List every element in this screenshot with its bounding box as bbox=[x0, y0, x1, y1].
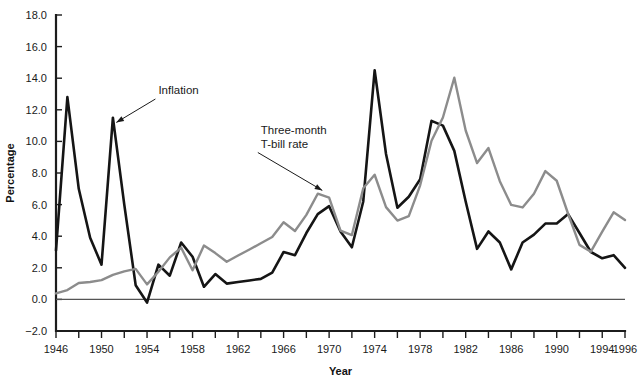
annotation-arrow-head bbox=[116, 116, 124, 122]
x-tick-label: 1970 bbox=[317, 343, 341, 355]
x-tick-label: 1946 bbox=[44, 343, 68, 355]
y-tick-label: 4.0 bbox=[32, 230, 47, 242]
x-tick-label: 1958 bbox=[180, 343, 204, 355]
y-tick-label: 14.0 bbox=[26, 72, 47, 84]
x-tick-label: 1996 bbox=[613, 343, 637, 355]
x-tick-label: 1962 bbox=[226, 343, 250, 355]
x-tick-label: 1966 bbox=[271, 343, 295, 355]
inflation-tbill-chart-figure: 18.016.014.012.010.08.06.04.02.00.0−2.0 … bbox=[0, 0, 638, 387]
tbill-annotation: Three-monthT-bill rate bbox=[258, 124, 327, 191]
series-line-inflation bbox=[56, 70, 625, 302]
x-tick-label: 1950 bbox=[89, 343, 113, 355]
annotation-leader-line bbox=[258, 153, 322, 191]
y-tick-label: 8.0 bbox=[32, 167, 47, 179]
x-tick-label: 1986 bbox=[499, 343, 523, 355]
annotations-group: InflationThree-monthT-bill rate bbox=[116, 84, 326, 190]
annotation-label: Three-month bbox=[261, 124, 327, 136]
annotation-label: T-bill rate bbox=[261, 138, 308, 150]
axis-spines bbox=[56, 15, 625, 331]
y-tick-label: 10.0 bbox=[26, 135, 47, 147]
axes-group bbox=[56, 15, 625, 331]
y-tick-label: 2.0 bbox=[32, 262, 47, 274]
x-tick-label: 1990 bbox=[544, 343, 568, 355]
x-tick-label: 1974 bbox=[362, 343, 386, 355]
series-line-three-month-t-bill-rate bbox=[56, 78, 625, 294]
y-tick-label: 12.0 bbox=[26, 104, 47, 116]
x-axis-title: Year bbox=[329, 365, 353, 377]
y-tick-label: 16.0 bbox=[26, 41, 47, 53]
x-tick-label: 1954 bbox=[135, 343, 159, 355]
y-tick-label: 6.0 bbox=[32, 199, 47, 211]
y-tick-label: −2.0 bbox=[25, 325, 47, 337]
x-tick-label: 1982 bbox=[453, 343, 477, 355]
y-tick-label: 0.0 bbox=[32, 293, 47, 305]
data-series-group bbox=[56, 70, 625, 302]
y-tick-label: 18.0 bbox=[26, 9, 47, 21]
inflation-annotation: Inflation bbox=[116, 84, 198, 122]
x-axis-ticks-group: 1946195019541958196219661970197419781982… bbox=[44, 331, 637, 355]
y-axis-title: Percentage bbox=[4, 143, 16, 202]
x-tick-label: 1994 bbox=[590, 343, 614, 355]
chart-plot-area: 18.016.014.012.010.08.06.04.02.00.0−2.0 … bbox=[0, 0, 638, 387]
x-tick-label: 1978 bbox=[408, 343, 432, 355]
annotation-label: Inflation bbox=[158, 84, 198, 96]
annotation-arrow-head bbox=[314, 184, 322, 190]
